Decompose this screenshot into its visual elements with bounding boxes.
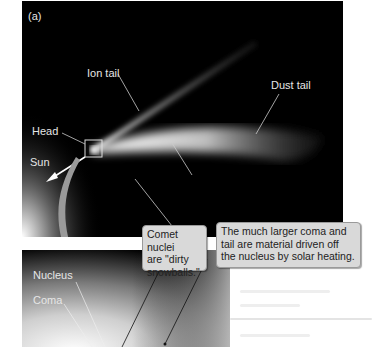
coma-label: Coma	[33, 294, 62, 306]
nucleus-label: Nucleus	[33, 269, 73, 281]
leader-endpoint-dot	[164, 343, 167, 346]
faded-line	[240, 304, 300, 307]
dust-tail-label: Dust tail	[271, 79, 311, 91]
head-label: Head	[32, 125, 58, 137]
callout-line: tail are material driven off	[221, 238, 356, 251]
ion-tail-label: Ion tail	[87, 67, 119, 79]
callout-line: snowballs."	[147, 266, 202, 279]
callout-line: Comet nuclei	[147, 228, 202, 253]
panel-label: (a)	[28, 10, 41, 22]
dust-tail-leader	[256, 94, 279, 134]
coma-callout-leader	[135, 179, 172, 226]
ion-tail-leader	[118, 74, 139, 111]
comet-overview-panel: (a) Ion tail Dust tail Head Sun	[22, 1, 343, 237]
callout-solar-heating: The much larger coma and tail are materi…	[216, 222, 361, 268]
callout-line: the nucleus by solar heating.	[221, 250, 356, 263]
comet-head	[90, 146, 98, 154]
background-page-text	[230, 280, 372, 347]
dust-tail-shape	[92, 127, 322, 161]
comet-illustration	[22, 1, 343, 237]
callout-dirty-snowballs: Comet nuclei are "dirty snowballs."	[142, 225, 207, 271]
faded-line	[240, 334, 310, 337]
faded-line	[240, 290, 330, 293]
callout-line: are "dirty	[147, 253, 202, 266]
sun-label: Sun	[30, 156, 50, 168]
faded-rule	[230, 318, 372, 320]
callout-line: The much larger coma and	[221, 225, 356, 238]
